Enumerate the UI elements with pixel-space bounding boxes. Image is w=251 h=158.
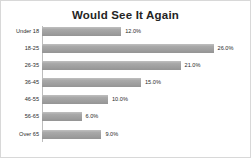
bar-36-45 xyxy=(42,78,141,87)
category-label: 18-25 xyxy=(8,45,42,52)
chart-container: Would See It Again Under 18 12.0% 18-25 … xyxy=(0,0,251,158)
bar-row: 46-55 10.0% xyxy=(8,92,246,107)
bar-row: 26-35 21.0% xyxy=(8,58,246,73)
category-label: 26-35 xyxy=(8,62,42,69)
chart-title: Would See It Again xyxy=(1,8,250,22)
bar-track: 6.0% xyxy=(42,109,246,124)
bar-row: Under 18 12.0% xyxy=(8,24,246,39)
bar-46-55 xyxy=(42,95,108,104)
category-label: 56-65 xyxy=(8,113,42,120)
plot-area: Under 18 12.0% 18-25 26.0% 26-35 21.0% 3… xyxy=(8,24,246,144)
bar-56-65 xyxy=(42,112,82,121)
bar-value-label: 12.0% xyxy=(121,28,141,35)
category-label: Over 65 xyxy=(8,131,42,138)
bar-row: 18-25 26.0% xyxy=(8,41,246,56)
bar-value-label: 10.0% xyxy=(108,96,128,103)
bar-18-25 xyxy=(42,44,214,53)
bar-track: 10.0% xyxy=(42,92,246,107)
bar-track: 12.0% xyxy=(42,24,246,39)
bar-track: 15.0% xyxy=(42,75,246,90)
bar-row: Over 65 9.0% xyxy=(8,127,246,142)
bar-row: 36-45 15.0% xyxy=(8,75,246,90)
bar-over-65 xyxy=(42,130,101,139)
bar-value-label: 21.0% xyxy=(181,62,201,69)
bar-value-label: 6.0% xyxy=(82,113,99,120)
category-label: 46-55 xyxy=(8,96,42,103)
bar-value-label: 9.0% xyxy=(101,131,118,138)
category-label: Under 18 xyxy=(8,28,42,35)
category-label: 36-45 xyxy=(8,79,42,86)
bar-value-label: 26.0% xyxy=(214,45,234,52)
bar-under-18 xyxy=(42,27,121,36)
bar-track: 26.0% xyxy=(42,41,246,56)
bar-value-label: 15.0% xyxy=(141,79,161,86)
bar-row: 56-65 6.0% xyxy=(8,109,246,124)
bar-track: 21.0% xyxy=(42,58,246,73)
bar-track: 9.0% xyxy=(42,127,246,142)
bar-26-35 xyxy=(42,61,181,70)
